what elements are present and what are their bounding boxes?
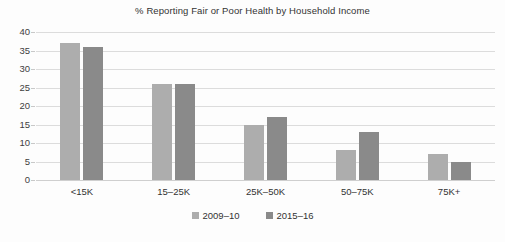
bar-group — [152, 32, 195, 180]
y-tick-label: 0 — [0, 175, 30, 185]
bar — [244, 125, 264, 181]
plot-area — [36, 32, 495, 180]
bar — [359, 132, 379, 180]
y-tick-mark — [31, 106, 35, 107]
y-tick-label: 35 — [0, 46, 30, 56]
y-tick-label: 10 — [0, 138, 30, 148]
x-tick-label: 15–25K — [157, 186, 190, 197]
legend-item[interactable]: 2009–10 — [192, 211, 240, 221]
bar — [267, 117, 287, 180]
y-tick-label: 25 — [0, 83, 30, 93]
y-tick-label: 40 — [0, 27, 30, 37]
x-axis: <15K15–25K25K–50K50–75K75K+ — [36, 186, 495, 200]
x-tick-label: 75K+ — [438, 186, 460, 197]
bar-group — [336, 32, 379, 180]
y-tick-mark — [31, 143, 35, 144]
x-tick-label: 50–75K — [341, 186, 374, 197]
bar — [175, 84, 195, 180]
y-tick-mark — [31, 32, 35, 33]
y-axis: 4035302520151050 — [0, 32, 30, 180]
y-tick-label: 5 — [0, 157, 30, 167]
bar-group — [60, 32, 103, 180]
bar — [428, 154, 448, 180]
legend-label: 2009–10 — [203, 211, 240, 221]
bar — [451, 162, 471, 181]
bar — [152, 84, 172, 180]
y-tick-mark — [31, 162, 35, 163]
bar-group — [244, 32, 287, 180]
y-tick-label: 15 — [0, 120, 30, 130]
legend-swatch-icon — [266, 212, 273, 219]
legend-item[interactable]: 2015–16 — [266, 211, 314, 221]
bar — [336, 150, 356, 180]
y-tick-mark — [31, 180, 35, 181]
y-tick-label: 20 — [0, 101, 30, 111]
y-tick-mark — [31, 51, 35, 52]
bar-group — [428, 32, 471, 180]
x-tick-label: 25K–50K — [246, 186, 285, 197]
y-tick-label: 30 — [0, 64, 30, 74]
y-tick-mark — [31, 88, 35, 89]
y-tick-mark — [31, 69, 35, 70]
chart-legend: 2009–102015–16 — [0, 211, 505, 221]
chart-title: % Reporting Fair or Poor Health by House… — [0, 5, 505, 16]
gridline — [36, 180, 495, 181]
bar — [83, 47, 103, 180]
x-tick-label: <15K — [71, 186, 93, 197]
legend-label: 2015–16 — [277, 211, 314, 221]
bar — [60, 43, 80, 180]
y-tick-mark — [31, 125, 35, 126]
chart-figure: % Reporting Fair or Poor Health by House… — [0, 0, 505, 242]
legend-swatch-icon — [192, 212, 199, 219]
